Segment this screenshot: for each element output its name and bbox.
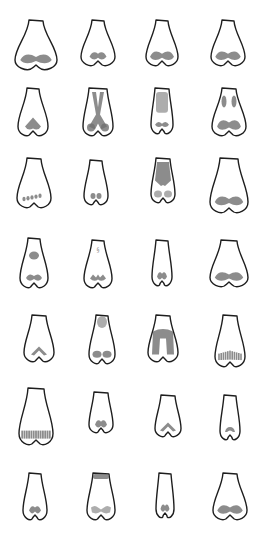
nose-outline	[156, 473, 174, 518]
nose-sketch	[155, 395, 181, 437]
nose-sketch	[89, 315, 115, 364]
nose-outline	[210, 240, 248, 287]
nose-outline	[20, 238, 48, 288]
nose-sketch	[15, 20, 57, 70]
nose-outline	[210, 158, 248, 213]
nose-sketch	[23, 473, 47, 520]
nose-outline	[18, 88, 48, 136]
nose-sketch	[83, 88, 113, 136]
nose-sketch: §	[84, 240, 112, 288]
nose-sketch	[17, 158, 51, 208]
nose-sketch	[210, 158, 248, 213]
nose-outline	[220, 395, 240, 440]
nose-outline	[212, 88, 246, 136]
nose-sketch	[151, 88, 173, 134]
nose-sketch	[156, 473, 174, 518]
nose-outline	[146, 20, 178, 66]
nose-outline	[15, 20, 57, 70]
nose-outline	[87, 473, 115, 520]
nose-outline	[17, 158, 51, 208]
nose-sketch	[220, 395, 240, 440]
nose-sketch	[20, 238, 48, 288]
nose-sketch	[84, 160, 108, 205]
nose-sketch	[215, 315, 245, 367]
nose-outline	[24, 315, 54, 362]
nose-sketch	[211, 20, 245, 66]
nose-outline	[81, 20, 115, 66]
nose-outline	[89, 392, 113, 433]
nose-sketch	[210, 240, 248, 287]
nose-outline	[211, 20, 245, 66]
nose-sketch	[24, 315, 54, 362]
svg-text:§: §	[97, 246, 100, 253]
nose-sketch	[89, 392, 113, 433]
nose-sketch	[148, 315, 178, 362]
nose-sketch	[212, 88, 246, 136]
nose-sketch	[87, 473, 115, 520]
nose-sketch	[19, 388, 53, 445]
nose-sketch	[152, 240, 172, 286]
nose-outline	[213, 473, 247, 520]
nose-sketch	[213, 473, 247, 520]
nose-outline	[23, 473, 47, 520]
nose-sketch	[146, 20, 178, 66]
nose-sketch	[81, 20, 115, 66]
nose-outline	[84, 160, 108, 205]
nose-sketch-grid: §	[0, 0, 267, 534]
nose-sketch	[18, 88, 48, 136]
nose-sketch	[151, 158, 175, 203]
nose-outline	[155, 395, 181, 437]
nose-outline	[152, 240, 172, 286]
